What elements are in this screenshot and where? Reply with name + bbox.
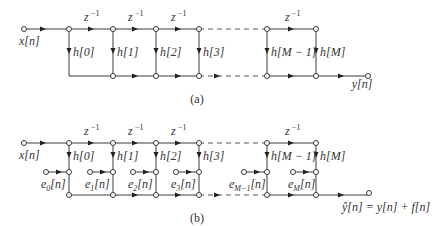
svg-text:h[3]: h[3]: [203, 149, 225, 163]
coefficient-labels-a: h[0] h[1] h[2] h[3] h[M − 1] h[M]: [73, 45, 346, 59]
svg-text:−1: −1: [178, 123, 187, 132]
svg-text:h[M − 1]: h[M − 1]: [271, 149, 317, 163]
part-a-graph: x[n] y[n] z−1 z−1 z−1 z−1 h[0] h[1] h[2]…: [18, 9, 373, 106]
coefficient-labels-b: h[0] h[1] h[2] h[3] h[M − 1] h[M]: [73, 149, 346, 163]
svg-text:−1: −1: [91, 9, 100, 18]
svg-text:e0[n]: e0[n]: [41, 177, 66, 193]
svg-text:z: z: [284, 10, 290, 24]
error-source-labels: e0[n] e1[n] e2[n] e3[n] eM−1[n] eM[n]: [41, 177, 316, 193]
svg-text:h[M − 1]: h[M − 1]: [271, 45, 317, 59]
svg-text:z: z: [83, 124, 89, 138]
svg-text:−1: −1: [91, 123, 100, 132]
svg-text:e1[n]: e1[n]: [85, 177, 110, 193]
svg-text:h[1]: h[1]: [117, 149, 139, 163]
input-label-a: x[n]: [18, 34, 40, 48]
svg-text:z: z: [127, 10, 133, 24]
svg-text:h[M]: h[M]: [320, 149, 346, 163]
svg-text:e3[n]: e3[n]: [171, 177, 196, 193]
svg-text:−1: −1: [178, 9, 187, 18]
svg-text:z: z: [127, 124, 133, 138]
svg-text:h[0]: h[0]: [73, 149, 95, 163]
svg-text:eM−1[n]: eM−1[n]: [229, 177, 266, 193]
svg-text:−1: −1: [292, 123, 301, 132]
svg-text:−1: −1: [135, 9, 144, 18]
svg-text:z: z: [83, 10, 89, 24]
svg-text:z: z: [170, 10, 176, 24]
delay-labels-a: z−1 z−1 z−1 z−1: [83, 9, 301, 24]
svg-text:h[3]: h[3]: [203, 45, 225, 59]
output-label-a: y[n]: [351, 77, 373, 91]
svg-text:h[2]: h[2]: [160, 149, 182, 163]
fir-signal-flow-diagram: x[n] y[n] z−1 z−1 z−1 z−1 h[0] h[1] h[2]…: [0, 0, 445, 226]
input-label-b: x[n]: [18, 148, 40, 162]
delay-labels-b: z−1 z−1 z−1 z−1: [83, 123, 301, 138]
svg-text:h[1]: h[1]: [117, 45, 139, 59]
caption-b: (b): [190, 211, 204, 225]
caption-a: (a): [190, 92, 203, 106]
svg-text:−1: −1: [135, 123, 144, 132]
svg-text:e2[n]: e2[n]: [128, 177, 153, 193]
svg-text:eM[n]: eM[n]: [288, 177, 316, 193]
svg-text:h[2]: h[2]: [160, 45, 182, 59]
svg-text:z: z: [284, 124, 290, 138]
svg-text:h[M]: h[M]: [320, 45, 346, 59]
part-b-graph: x[n] z−1 z−1 z−1 z−1 h[0] h[1] h[2] h[3]…: [18, 123, 431, 225]
svg-text:z: z: [170, 124, 176, 138]
output-label-b: ŷ[n] = y[n] + f[n]: [341, 200, 431, 214]
svg-text:−1: −1: [292, 9, 301, 18]
svg-text:h[0]: h[0]: [73, 45, 95, 59]
